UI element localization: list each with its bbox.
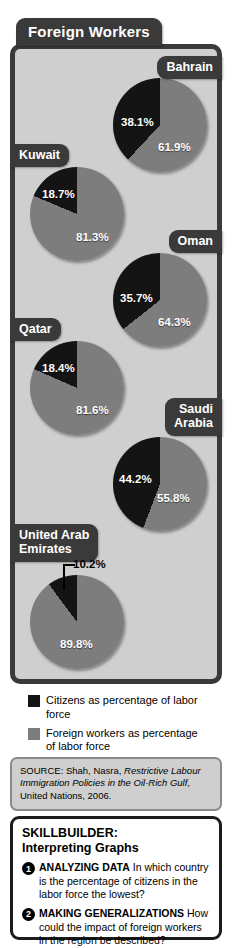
pie-label-uae-foreign: 89.8% <box>60 638 93 650</box>
legend: Citizens as percentage of labor force Fo… <box>28 694 206 759</box>
country-tab-saudi-arabia: SaudiArabia <box>165 398 222 436</box>
pie-label-kuwait-foreign: 81.3% <box>76 231 109 243</box>
source-note: SOURCE: Shah, Nasra, Restrictive Labour … <box>10 757 222 811</box>
question-2-tag: MAKING GENERALIZATIONS <box>39 907 184 919</box>
legend-item-citizens: Citizens as percentage of labor force <box>28 694 206 722</box>
pie-slices-qatar <box>30 341 124 435</box>
pie-slices-kuwait <box>30 167 124 261</box>
uae-leader-line-vertical <box>63 564 65 590</box>
pie-chart-kuwait <box>30 167 124 261</box>
legend-item-foreign: Foreign workers as percentage of labor f… <box>28 727 206 755</box>
country-tab-bahrain: Bahrain <box>157 56 222 79</box>
country-tab-kuwait: Kuwait <box>10 144 69 167</box>
legend-swatch-foreign-icon <box>28 728 40 740</box>
question-2-body: MAKING GENERALIZATIONS How could the imp… <box>39 907 210 948</box>
skillbuilder-heading: SKILLBUILDER: <box>22 826 210 841</box>
question-1-tag: ANALYZING DATA <box>39 861 130 873</box>
pie-label-bahrain-foreign: 61.9% <box>158 141 191 153</box>
country-tab-united-arab-emirates: United ArabEmirates <box>10 524 98 562</box>
pie-label-qatar-citizens: 18.4% <box>42 362 75 374</box>
legend-label-citizens: Citizens as percentage of labor force <box>46 694 206 722</box>
infographic-root: Foreign Workers Bahrain 38.1% 61.9% Kuwa… <box>0 0 232 948</box>
pie-label-oman-foreign: 64.3% <box>158 316 191 328</box>
skillbuilder-question-1: 1 ANALYZING DATA In which country is the… <box>22 861 210 902</box>
skillbuilder-subheading: Interpreting Graphs <box>22 841 210 856</box>
skillbuilder-question-2: 2 MAKING GENERALIZATIONS How could the i… <box>22 907 210 948</box>
legend-label-foreign: Foreign workers as percentage of labor f… <box>46 727 206 755</box>
pie-chart-qatar <box>30 341 124 435</box>
pie-chart-uae <box>30 575 124 669</box>
legend-swatch-citizens-icon <box>28 695 40 707</box>
pie-label-uae-citizens: 10.2% <box>73 558 106 570</box>
pie-label-oman-citizens: 35.7% <box>120 292 153 304</box>
pie-slices-uae <box>30 575 124 669</box>
source-prefix: SOURCE: Shah, Nasra, <box>20 765 124 776</box>
pie-label-kuwait-citizens: 18.7% <box>42 188 75 200</box>
pie-label-saudi-citizens: 44.2% <box>119 473 152 485</box>
country-tab-qatar: Qatar <box>10 318 61 341</box>
question-number-2-icon: 2 <box>22 908 35 921</box>
pie-label-qatar-foreign: 81.6% <box>76 404 109 416</box>
pie-label-bahrain-citizens: 38.1% <box>121 116 154 128</box>
question-1-body: ANALYZING DATA In which country is the p… <box>39 861 210 902</box>
question-number-1-icon: 1 <box>22 862 35 875</box>
country-tab-oman: Oman <box>169 230 222 253</box>
pie-label-saudi-foreign: 55.8% <box>157 492 190 504</box>
skillbuilder-box: SKILLBUILDER: Interpreting Graphs 1 ANAL… <box>10 816 222 940</box>
page-title: Foreign Workers <box>16 18 162 46</box>
